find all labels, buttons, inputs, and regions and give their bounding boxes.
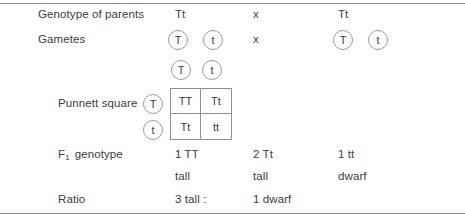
gamete-circle-right-2: t [368, 30, 388, 50]
punnett-cell-r2c2: tt [201, 114, 231, 139]
parent-genotype-left: Tt [175, 8, 185, 20]
parent-genotype-right: Tt [338, 8, 348, 20]
f1-label-suffix: genotype [75, 148, 123, 160]
bottom-divider [0, 213, 465, 214]
parent-cross-symbol: x [253, 8, 259, 20]
punnett-row-header-2: t [143, 120, 163, 140]
f1-phenotype-3: dwarf [338, 170, 367, 182]
gamete-circle-right-1: T [333, 30, 353, 50]
row-label-ratio: Ratio [58, 193, 85, 205]
punnett-cell-r1c2: Tt [201, 89, 231, 114]
gamete-circle-left-2: t [203, 30, 223, 50]
punnett-row-header-1: T [143, 94, 163, 114]
punnett-square-diagram: Genotype of parents Tt x Tt Gametes T t … [0, 0, 465, 219]
punnett-cell-r1c1: TT [171, 89, 201, 114]
f1-genotype-value-1: 1 TT [175, 148, 199, 160]
row-label-genotype-of-parents: Genotype of parents [38, 8, 144, 20]
gamete-cross-symbol: x [253, 33, 259, 45]
f1-phenotype-1: tall [175, 170, 190, 182]
f1-phenotype-2: tall [253, 170, 268, 182]
f1-genotype-value-2: 2 Tt [253, 148, 273, 160]
punnett-grid: TT Tt Tt tt [170, 88, 232, 140]
f1-label-subscript: 1 [65, 153, 70, 162]
gamete-circle-left-1: T [168, 30, 188, 50]
top-divider [0, 3, 465, 4]
punnett-column-header-2: t [202, 60, 222, 80]
row-label-gametes: Gametes [38, 33, 85, 45]
punnett-column-header-1: T [171, 60, 191, 80]
row-label-f1-genotype: F1genotype [58, 148, 123, 160]
f1-genotype-value-3: 1 tt [338, 148, 354, 160]
ratio-value-right: 1 dwarf [253, 193, 291, 205]
row-label-punnett-square: Punnett square [58, 97, 137, 109]
punnett-cell-r2c1: Tt [171, 114, 201, 139]
ratio-value-left: 3 tall : [175, 193, 206, 205]
